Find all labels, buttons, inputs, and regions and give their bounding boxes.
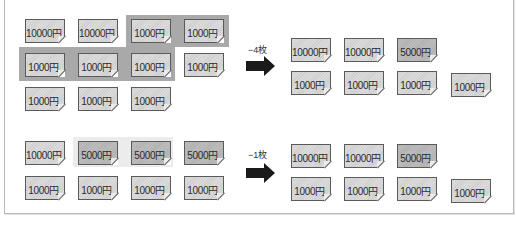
bill-card: 1000円 (451, 73, 491, 97)
bill-card: 1000円 (25, 176, 65, 200)
folded-corner-icon (377, 88, 384, 95)
folded-corner-icon (324, 88, 331, 95)
bill-card: 5000円 (397, 144, 437, 168)
folded-corner-icon (111, 158, 118, 165)
bill-card: 1000円 (184, 176, 224, 200)
folded-corner-icon (484, 90, 491, 97)
folded-corner-icon (217, 70, 224, 77)
folded-corner-icon (111, 104, 118, 111)
folded-corner-icon (324, 161, 331, 168)
bill-card: 1000円 (131, 87, 171, 111)
folded-corner-icon (430, 194, 437, 201)
right-arrow-icon (246, 163, 276, 183)
folded-corner-icon (164, 70, 171, 77)
folded-corner-icon (324, 55, 331, 62)
bill-card: 1000円 (291, 71, 331, 95)
bill-card: 10000円 (25, 19, 65, 43)
folded-corner-icon (111, 36, 118, 43)
bill-card: 1000円 (184, 19, 224, 43)
folded-corner-icon (164, 104, 171, 111)
bill-card: 1000円 (451, 179, 491, 203)
folded-corner-icon (58, 158, 65, 165)
folded-corner-icon (164, 193, 171, 200)
bill-card: 1000円 (25, 87, 65, 111)
bill-card: 1000円 (291, 177, 331, 201)
folded-corner-icon (164, 158, 171, 165)
bill-card: 5000円 (131, 141, 171, 165)
bill-card: 10000円 (344, 38, 384, 62)
folded-corner-icon (217, 193, 224, 200)
folded-corner-icon (377, 161, 384, 168)
bill-card: 1000円 (78, 53, 118, 77)
bill-card: 1000円 (344, 71, 384, 95)
bill-card: 1000円 (25, 53, 65, 77)
folded-corner-icon (111, 193, 118, 200)
bill-card: 5000円 (78, 141, 118, 165)
folded-corner-icon (58, 70, 65, 77)
folded-corner-icon (430, 55, 437, 62)
folded-corner-icon (58, 104, 65, 111)
right-arrow-icon (246, 56, 276, 76)
folded-corner-icon (377, 194, 384, 201)
bill-card: 1000円 (78, 87, 118, 111)
bill-card: 1000円 (344, 177, 384, 201)
bill-card: 1000円 (397, 71, 437, 95)
folded-corner-icon (217, 36, 224, 43)
bill-card: 1000円 (131, 53, 171, 77)
folded-corner-icon (217, 158, 224, 165)
bill-card: 1000円 (397, 177, 437, 201)
bill-card: 10000円 (291, 38, 331, 62)
bill-card: 1000円 (131, 176, 171, 200)
bill-card: 10000円 (291, 144, 331, 168)
folded-corner-icon (484, 196, 491, 203)
folded-corner-icon (430, 88, 437, 95)
bill-card: 10000円 (78, 19, 118, 43)
bill-card: 1000円 (184, 53, 224, 77)
folded-corner-icon (58, 36, 65, 43)
operation-label: −4枚 (248, 43, 267, 56)
bill-card: 1000円 (78, 176, 118, 200)
bill-card: 5000円 (397, 38, 437, 62)
folded-corner-icon (430, 161, 437, 168)
folded-corner-icon (324, 194, 331, 201)
operation-label: −1枚 (248, 148, 267, 161)
bill-card: 1000円 (131, 19, 171, 43)
bill-card: 5000円 (184, 141, 224, 165)
folded-corner-icon (164, 36, 171, 43)
bill-card: 10000円 (25, 141, 65, 165)
folded-corner-icon (377, 55, 384, 62)
bill-card: 10000円 (344, 144, 384, 168)
folded-corner-icon (111, 70, 118, 77)
folded-corner-icon (58, 193, 65, 200)
